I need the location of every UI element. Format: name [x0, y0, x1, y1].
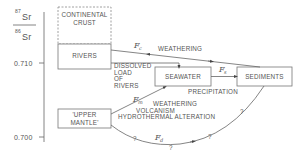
svg-text:SEDIMENTS: SEDIMENTS — [245, 73, 284, 80]
flux-fs: F s — [218, 65, 227, 75]
svg-text:MANTLE': MANTLE' — [70, 119, 98, 126]
sediments-box: SEDIMENTS — [237, 67, 292, 86]
question-mark-2: ? — [169, 144, 173, 151]
question-mark-1: ? — [133, 135, 137, 142]
svg-text:d: d — [160, 137, 163, 143]
numerator-element: Sr — [22, 12, 31, 22]
axis-label: 87 Sr 86 Sr — [13, 8, 36, 42]
flux-fc: F c — [133, 41, 142, 51]
seawater-box: SEAWATER — [155, 67, 211, 86]
flux-fm: F m — [132, 95, 143, 105]
tick-label-0710: 0.710 — [14, 60, 33, 67]
svg-text:'UPPER: 'UPPER — [72, 111, 96, 118]
flux-fd: F d — [154, 133, 163, 143]
denominator-mass: 86 — [15, 28, 21, 34]
strontium-cycle-diagram: 87 Sr 86 Sr 0.710 0.700 CONTINENTAL CRUS… — [0, 0, 300, 157]
rivers-box: RIVERS — [58, 44, 111, 69]
weathering-arrow-right — [208, 61, 212, 62]
dissolved-load-label: DISSOLVED LOAD OF RIVERS — [114, 62, 152, 89]
upper-mantle-box: 'UPPER MANTLE' — [58, 109, 111, 128]
precipitation-label: PRECIPITATION — [188, 88, 238, 95]
svg-text:m: m — [138, 99, 143, 105]
tick-label-0700: 0.700 — [14, 134, 33, 141]
svg-text:RIVERS: RIVERS — [72, 52, 97, 59]
continental-crust-box: CONTINENTAL CRUST — [58, 7, 111, 44]
svg-text:SEAWATER: SEAWATER — [165, 73, 201, 80]
svg-text:s: s — [224, 69, 227, 75]
svg-text:c: c — [139, 45, 142, 51]
svg-text:RIVERS: RIVERS — [114, 82, 139, 89]
question-mark-4: ? — [240, 108, 244, 115]
question-mark-3: ? — [208, 133, 212, 140]
svg-text:CRUST: CRUST — [73, 19, 96, 26]
svg-text:HYDROTHERMAL ALTERATION: HYDROTHERMAL ALTERATION — [118, 113, 215, 120]
weathering-label: WEATHERING — [158, 45, 202, 52]
numerator-mass: 87 — [15, 8, 21, 14]
svg-text:CONTINENTAL: CONTINENTAL — [61, 11, 107, 18]
denominator-element: Sr — [22, 32, 31, 42]
